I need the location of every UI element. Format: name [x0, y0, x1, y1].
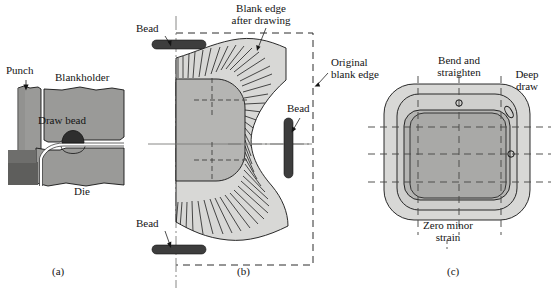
- panel-caption-a: (a): [52, 265, 64, 277]
- bend-and-straighten-label: Bend and straighten: [412, 54, 506, 79]
- bead-top: [152, 40, 206, 49]
- punch-label: Punch: [6, 64, 34, 76]
- leader-original-blank-edge: [318, 73, 328, 84]
- panel-caption-b: (b): [237, 265, 250, 277]
- bead-label-right: Bead: [287, 102, 310, 114]
- die-dark-block-upper: [8, 150, 36, 163]
- original-blank-edge-label: Original blank edge: [331, 56, 379, 81]
- panel-caption-c: (c): [447, 265, 459, 277]
- blankholder-label: Blankholder: [55, 71, 109, 83]
- blank-edge-after-drawing-label: Blank edge after drawing: [213, 2, 309, 27]
- deep-draw-label: Deep draw: [505, 68, 549, 93]
- draw-bead-label: Draw bead: [38, 114, 86, 126]
- arrow-bead-right: [292, 127, 297, 133]
- zero-minor-strain-label: Zero minor strain: [404, 219, 492, 244]
- diagram-svg: [0, 0, 551, 298]
- punch-footprint-c: [410, 113, 506, 198]
- die-label: Die: [74, 185, 90, 197]
- bead-label-top: Bead: [136, 22, 159, 34]
- bead-label-bottom: Bead: [136, 217, 159, 229]
- panel-b: [148, 16, 328, 288]
- die-body: [36, 148, 124, 186]
- die-dark-block: [8, 162, 38, 185]
- drawn-part-region: [176, 79, 245, 181]
- bead-bottom: [152, 245, 206, 254]
- panel-a: [8, 80, 124, 186]
- bead-right: [284, 118, 293, 178]
- figure-root: [0, 0, 551, 298]
